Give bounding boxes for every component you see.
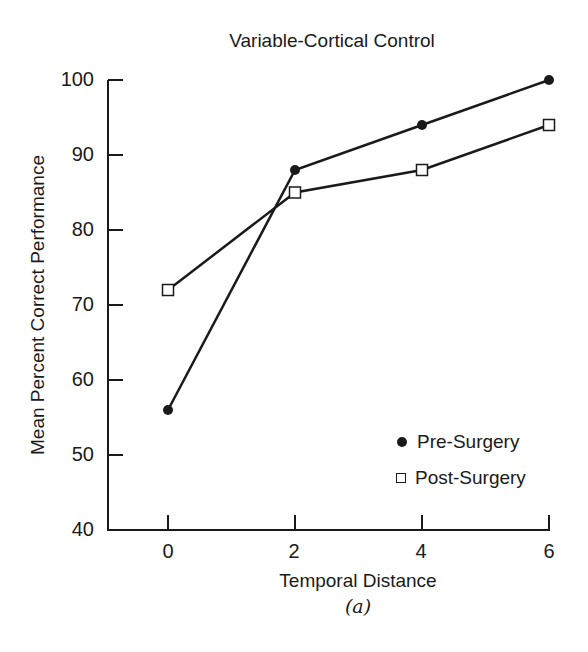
data-point [290,187,301,198]
plot-area [0,0,588,652]
legend-item-post-surgery: Post-Surgery [396,460,526,496]
series-markers [163,75,555,415]
series-line-1 [168,125,549,290]
data-point [290,165,300,175]
data-point [163,405,173,415]
filled-circle-icon [397,437,407,447]
data-point [544,75,554,85]
data-point [417,120,427,130]
data-point [163,285,174,296]
legend: Pre-Surgery Post-Surgery [396,424,526,496]
legend-item-pre-surgery: Pre-Surgery [396,424,526,460]
legend-label: Post-Surgery [415,467,526,489]
legend-label: Pre-Surgery [417,431,519,453]
open-square-icon [396,473,406,483]
data-point [417,165,428,176]
data-point [544,120,555,131]
series-lines [168,80,549,410]
